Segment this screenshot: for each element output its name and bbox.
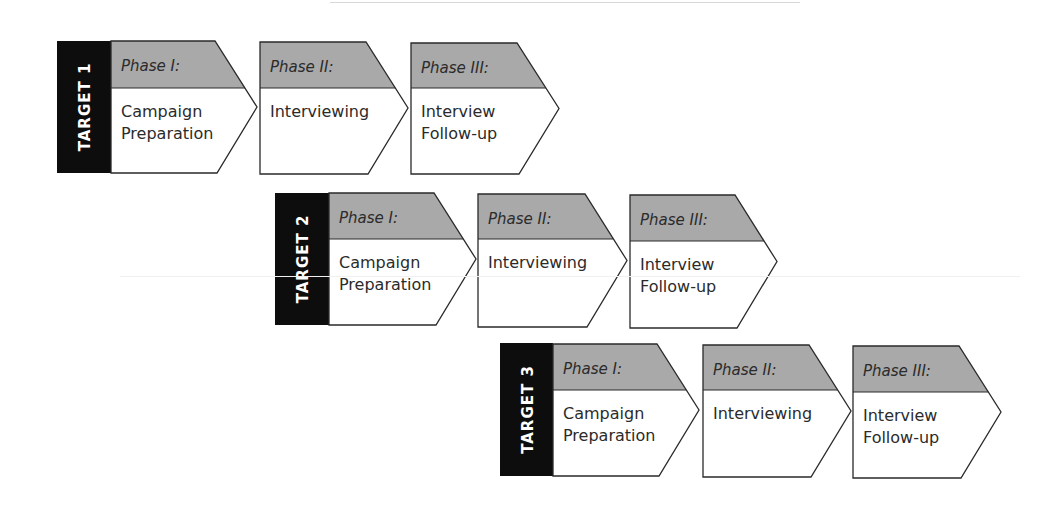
phase-description-line: Interview [863,406,937,425]
phase-title: Phase I: [563,360,622,378]
phase-chevron-1: Phase I:CampaignPreparation [329,193,476,325]
phase-chevron-3: Phase III:InterviewFollow-up [853,346,1001,478]
phase-description-line: Campaign [563,404,644,423]
phase-title: Phase I: [339,209,398,227]
phase-description-line: Follow-up [421,124,497,143]
phase-chevron-2: Phase II:Interviewing [703,345,851,477]
phase-description-line: Interviewing [488,253,587,272]
phase-title: Phase II: [488,210,551,228]
phase-chevron-2: Phase II:Interviewing [478,194,627,327]
faint-scan-line [120,276,1020,277]
phase-body [260,88,408,174]
target-label: TARGET 2 [294,215,312,304]
phase-description-line: Preparation [339,275,431,294]
phase-description-line: Preparation [563,426,655,445]
phase-title: Phase II: [270,58,333,76]
phase-description-line: Interviewing [270,102,369,121]
phase-description-line: Interview [421,102,495,121]
target-row-3: TARGET 3Phase I:CampaignPreparationPhase… [500,343,1001,478]
phase-title: Phase III: [863,362,931,380]
phase-description-line: Campaign [339,253,420,272]
phase-description-line: Interview [640,255,714,274]
phase-description-line: Follow-up [640,277,716,296]
phase-title: Phase II: [713,361,776,379]
phase-chevron-2: Phase II:Interviewing [260,42,408,174]
target-row-1: TARGET 1Phase I:CampaignPreparationPhase… [57,41,559,174]
target-label: TARGET 1 [76,63,94,152]
phase-description-line: Preparation [121,124,213,143]
top-divider-line [330,2,800,3]
phase-chevron-1: Phase I:CampaignPreparation [111,41,257,173]
target-label: TARGET 3 [519,365,537,454]
phase-description-line: Follow-up [863,428,939,447]
phase-title: Phase III: [640,211,708,229]
phase-description-line: Interviewing [713,404,812,423]
phase-title: Phase I: [121,57,180,75]
target-phase-diagram: TARGET 1Phase I:CampaignPreparationPhase… [0,0,1056,509]
phase-chevron-1: Phase I:CampaignPreparation [553,344,699,476]
diagram-canvas: TARGET 1Phase I:CampaignPreparationPhase… [0,0,1056,509]
phase-chevron-3: Phase III:InterviewFollow-up [411,43,559,174]
phase-chevron-3: Phase III:InterviewFollow-up [630,195,777,328]
phase-title: Phase III: [421,59,489,77]
phase-description-line: Campaign [121,102,202,121]
target-row-2: TARGET 2Phase I:CampaignPreparationPhase… [275,193,777,328]
